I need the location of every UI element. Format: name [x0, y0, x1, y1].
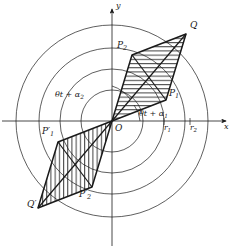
point-label-P1-prime: P′1 — [42, 127, 54, 137]
origin-label: O — [115, 124, 122, 133]
x-axis-label: x — [224, 123, 229, 131]
tick-label-r2: r2 — [190, 124, 197, 133]
point-label-Q-prime: Q′ — [27, 200, 36, 209]
figure-container: y x O r1 r2 θt + α2 θt + α1 Q P2 P1 P′1 … — [0, 0, 235, 252]
point-label-P1: P1 — [169, 89, 179, 99]
angle-label-theta-t-alpha-1: θt + α1 — [139, 110, 168, 119]
y-axis-label: y — [116, 2, 121, 10]
point-label-P2: P2 — [117, 41, 127, 51]
angle-label-theta-t-alpha-2: θt + α2 — [55, 91, 84, 100]
tick-label-r1: r1 — [164, 124, 171, 133]
point-label-Q: Q — [190, 21, 197, 30]
point-label-P2-prime: P′2 — [79, 190, 91, 200]
